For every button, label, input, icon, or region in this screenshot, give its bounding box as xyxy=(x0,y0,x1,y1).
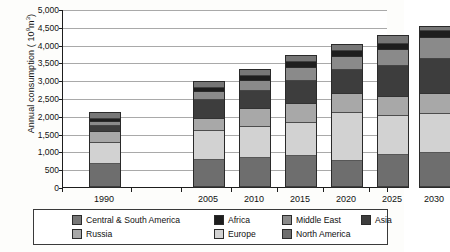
bar-segment xyxy=(378,155,408,187)
bar-2015 xyxy=(286,56,316,187)
bar-segment xyxy=(90,164,120,187)
y-axis-tick-label: 4,500 xyxy=(18,23,59,33)
legend-label: North America xyxy=(296,229,350,239)
bar-segment xyxy=(332,113,362,160)
bar-segment xyxy=(90,132,120,144)
legend-swatch xyxy=(214,229,224,239)
bar-2030 xyxy=(420,27,450,187)
bar-segment xyxy=(332,161,362,187)
y-axis-tick-labels: 05001,0001,5002,0002,5003,0003,5004,0004… xyxy=(18,10,59,188)
y-axis-tick-mark xyxy=(59,117,63,118)
bar-1990 xyxy=(90,113,120,187)
x-axis-tick-mark xyxy=(369,188,370,192)
x-axis-tick-mark xyxy=(231,188,232,192)
bar-segment xyxy=(240,81,270,91)
legend-swatch xyxy=(72,215,82,225)
bar-segment xyxy=(194,160,224,187)
x-axis: 1990200520102015202020252030 xyxy=(62,188,387,208)
x-axis-tick-mark xyxy=(387,188,388,192)
x-axis-tick-label-2020: 2020 xyxy=(336,194,356,204)
bar-segment xyxy=(420,31,450,38)
chart-legend: Central & South AmericaAfricaMiddle East… xyxy=(33,209,388,245)
bar-segment xyxy=(378,50,408,66)
bar-segment xyxy=(420,94,450,114)
bar-segment xyxy=(378,116,408,155)
bar-segment xyxy=(332,57,362,70)
bar-segment xyxy=(286,104,316,123)
x-axis-tick-label-1990: 1990 xyxy=(94,194,114,204)
x-axis-tick-mark xyxy=(277,188,278,192)
x-axis-tick-mark xyxy=(131,188,132,192)
bar-segment xyxy=(286,156,316,187)
y-axis-tick-mark xyxy=(59,135,63,136)
legend-item: Asia xyxy=(361,215,392,225)
x-axis-tick-mark xyxy=(181,188,182,192)
bar-segment xyxy=(194,100,224,119)
bar-segment xyxy=(286,123,316,156)
legend-item: Russia xyxy=(72,229,112,239)
y-axis-tick-label: 0 xyxy=(18,183,59,193)
legend-item: Central & South America xyxy=(72,215,180,225)
y-axis-tick-mark xyxy=(59,63,63,64)
bar-2010 xyxy=(240,70,270,187)
legend-swatch xyxy=(361,215,371,225)
legend-label: Asia xyxy=(375,215,392,225)
legend-item: North America xyxy=(282,229,350,239)
x-axis-tick-mark xyxy=(62,188,63,192)
y-axis-tick-label: 3,500 xyxy=(18,58,59,68)
legend-swatch xyxy=(282,229,292,239)
y-axis-tick-mark xyxy=(59,46,63,47)
bar-segment xyxy=(378,36,408,43)
legend-label: Middle East xyxy=(296,215,341,225)
bar-segment xyxy=(240,158,270,187)
bar-segment xyxy=(420,59,450,95)
legend-swatch xyxy=(214,215,224,225)
y-axis-tick-label: 1,000 xyxy=(18,147,59,157)
y-axis-tick-label: 3,000 xyxy=(18,76,59,86)
y-axis-tick-label: 2,500 xyxy=(18,94,59,104)
bar-group xyxy=(63,10,387,187)
legend-item: Middle East xyxy=(282,215,341,225)
bar-segment xyxy=(286,68,316,81)
y-axis-tick-mark xyxy=(59,170,63,171)
bar-segment xyxy=(420,38,450,59)
x-axis-tick-label-2030: 2030 xyxy=(424,194,444,204)
bar-segment xyxy=(194,92,224,100)
bar-2020 xyxy=(332,45,362,187)
bar-segment xyxy=(240,127,270,158)
bar-2025 xyxy=(378,36,408,187)
x-axis-tick-label-2005: 2005 xyxy=(198,194,218,204)
bar-segment xyxy=(194,119,224,131)
bar-segment xyxy=(194,131,224,160)
bar-segment xyxy=(378,97,408,116)
legend-label: Europe xyxy=(228,229,256,239)
y-axis-tick-label: 4,000 xyxy=(18,41,59,51)
y-axis-tick-mark xyxy=(59,81,63,82)
bar-segment xyxy=(240,91,270,109)
y-axis-tick-label: 500 xyxy=(18,165,59,175)
legend-swatch xyxy=(72,229,82,239)
bar-2005 xyxy=(194,82,224,187)
x-axis-tick-label-2015: 2015 xyxy=(290,194,310,204)
plot-area xyxy=(62,10,387,188)
y-axis-tick-mark xyxy=(59,10,63,11)
x-axis-tick-label-2025: 2025 xyxy=(382,194,402,204)
legend-row-2: RussiaEuropeNorth America xyxy=(39,227,382,241)
legend-label: Central & South America xyxy=(86,215,180,225)
legend-label: Africa xyxy=(228,215,250,225)
y-axis-tick-mark xyxy=(59,28,63,29)
bar-segment xyxy=(332,94,362,113)
x-axis-tick-label-2010: 2010 xyxy=(244,194,264,204)
y-axis-tick-mark xyxy=(59,99,63,100)
bar-segment xyxy=(240,109,270,126)
legend-item: Europe xyxy=(214,229,256,239)
y-axis-tick-label: 5,000 xyxy=(18,5,59,15)
legend-row-1: Central & South AmericaAfricaMiddle East… xyxy=(39,213,382,227)
x-axis-tick-mark xyxy=(323,188,324,192)
bar-segment xyxy=(286,81,316,104)
bar-segment xyxy=(332,70,362,94)
legend-label: Russia xyxy=(86,229,112,239)
bar-segment xyxy=(90,143,120,164)
bar-segment xyxy=(420,114,450,153)
